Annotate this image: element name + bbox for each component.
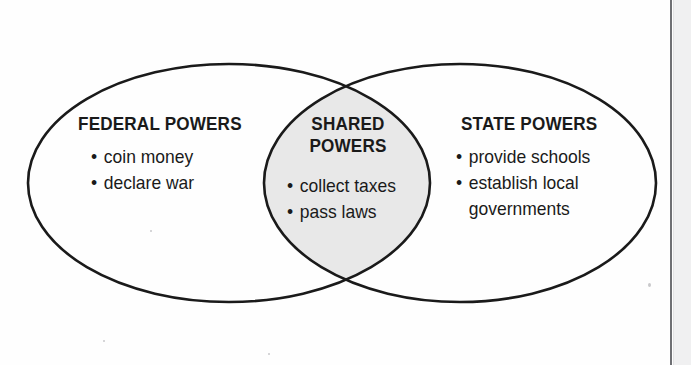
list-item-label: coin money (104, 146, 193, 167)
shared-powers-heading: SHARED POWERS (297, 113, 400, 157)
bullet-icon: • (91, 144, 97, 170)
bullet-icon: • (287, 173, 293, 199)
shared-powers-heading-line1: SHARED (297, 113, 400, 135)
federal-powers-heading: FEDERAL POWERS (78, 113, 242, 135)
list-item-label: pass laws (300, 201, 377, 222)
list-item-label: provide schools (469, 146, 590, 167)
scan-speckle (150, 230, 152, 232)
list-item: • collect taxes (286, 173, 396, 199)
list-item-label-continued: governments (469, 196, 590, 222)
scan-speckle (648, 283, 651, 287)
scan-page-edge-line (670, 0, 672, 365)
shared-powers-heading-line2: POWERS (297, 135, 400, 157)
scan-speckle (268, 353, 270, 355)
state-powers-list: • provide schools • establish local gove… (455, 144, 590, 222)
scan-speckle (103, 340, 105, 342)
bullet-icon: • (456, 144, 462, 170)
list-item: • pass laws (286, 199, 396, 225)
list-item: • establish local governments (455, 170, 590, 222)
state-powers-heading: STATE POWERS (461, 113, 597, 135)
list-item-label: declare war (104, 172, 194, 193)
list-item: • declare war (90, 170, 194, 196)
bullet-icon: • (91, 170, 97, 196)
bullet-icon: • (287, 199, 293, 225)
list-item: • coin money (90, 144, 194, 170)
shared-powers-list: • collect taxes • pass laws (286, 173, 396, 225)
bullet-icon: • (456, 170, 462, 196)
list-item-label: collect taxes (300, 175, 396, 196)
venn-diagram-page: FEDERAL POWERS • coin money • declare wa… (0, 0, 691, 365)
scan-page-margin (673, 0, 691, 365)
federal-powers-list: • coin money • declare war (90, 144, 194, 196)
list-item: • provide schools (455, 144, 590, 170)
list-item-label: establish local (469, 170, 590, 196)
